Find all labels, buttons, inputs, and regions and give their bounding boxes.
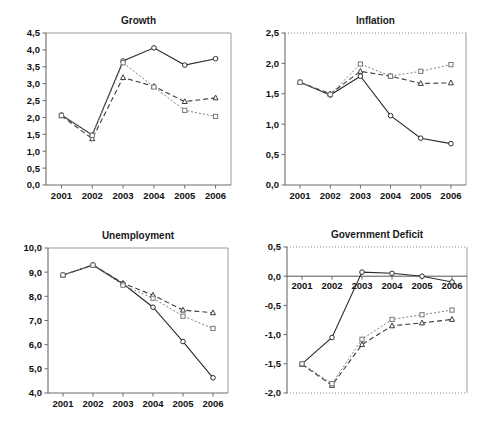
y-tick-label: 1,0 (266, 119, 279, 130)
data-point-marker-circle (152, 46, 157, 51)
unemployment-chart-svg: Unemployment4,05,06,07,08,09,010,0200120… (0, 214, 239, 428)
data-point-marker-square (59, 113, 63, 117)
x-tick-label: 2001 (52, 398, 74, 409)
y-tick-label: 0,0 (27, 179, 40, 190)
y-tick-label: 7,0 (29, 315, 42, 326)
y-tick-label: 2,5 (266, 27, 280, 38)
x-tick-label: 2002 (82, 190, 103, 201)
x-tick-label: 2003 (112, 398, 133, 409)
data-point-marker-triangle (182, 99, 187, 104)
y-tick-label: 10,0 (24, 242, 43, 253)
data-point-marker-triangle (121, 75, 126, 80)
data-point-marker-circle (330, 335, 335, 340)
government-deficit-chart-svg: Government Deficit-2,0-1,5-1,0-0,50,00,5… (239, 214, 478, 428)
data-point-marker-circle (388, 113, 393, 118)
x-tick-label: 2004 (380, 190, 402, 201)
series-line-dashed-triangle (302, 319, 452, 385)
series-line-dashed-triangle (63, 265, 213, 313)
data-point-marker-circle (213, 56, 218, 61)
y-tick-label: 4,0 (29, 387, 42, 398)
series-line-solid-circle (300, 76, 451, 143)
data-point-marker-triangle (418, 81, 423, 86)
y-tick-label: 3,5 (27, 61, 41, 72)
series-line-dashed-triangle (300, 71, 451, 94)
data-point-marker-triangle (358, 69, 363, 74)
data-point-marker-square (300, 362, 304, 366)
y-tick-label: 4,5 (27, 27, 41, 38)
x-tick-label: 2001 (291, 280, 313, 291)
chart-title: Unemployment (102, 230, 175, 241)
y-tick-label: 9,0 (29, 267, 42, 278)
chart-title: Growth (121, 15, 156, 26)
x-tick-label: 2005 (174, 190, 196, 201)
y-tick-label: 2,0 (27, 112, 40, 123)
data-point-marker-square (181, 314, 185, 318)
data-point-marker-square (360, 337, 364, 341)
data-point-marker-circle (360, 270, 365, 275)
x-tick-label: 2005 (410, 190, 432, 201)
y-tick-label: -0,5 (265, 300, 282, 311)
data-point-marker-square (358, 62, 362, 66)
data-point-marker-circle (420, 274, 425, 279)
y-tick-label: 0,5 (266, 149, 280, 160)
y-tick-label: 2,5 (27, 95, 41, 106)
y-tick-label: 6,0 (29, 339, 42, 350)
series-line-solid-circle (63, 265, 213, 378)
data-point-marker-square (61, 273, 65, 277)
x-tick-label: 2004 (143, 190, 165, 201)
data-point-marker-square (388, 74, 392, 78)
data-point-marker-square (420, 313, 424, 317)
y-tick-label: -1,5 (265, 358, 282, 369)
data-point-marker-square (90, 133, 94, 137)
data-point-marker-circle (211, 375, 216, 380)
data-point-marker-square (298, 80, 302, 84)
data-point-marker-square (213, 114, 217, 118)
inflation-chart-svg: Inflation0,00,51,01,52,02,52001200220032… (239, 0, 478, 214)
data-point-marker-square (328, 92, 332, 96)
data-point-marker-square (91, 263, 95, 267)
y-tick-label: 1,5 (266, 88, 280, 99)
y-tick-label: 0,0 (266, 179, 279, 190)
data-point-marker-triangle (419, 320, 424, 325)
growth-chart-svg: Growth0,00,51,01,52,02,53,03,54,04,52001… (0, 0, 239, 214)
y-tick-label: -1,0 (265, 329, 281, 340)
data-point-marker-square (121, 283, 125, 287)
y-tick-label: 0,5 (27, 163, 41, 174)
multi-panel-chart-figure: Growth0,00,51,01,52,02,53,03,54,04,52001… (0, 0, 478, 428)
data-point-marker-square (450, 308, 454, 312)
x-tick-label: 2001 (51, 190, 73, 201)
chart-panel-growth: Growth0,00,51,01,52,02,53,03,54,04,52001… (0, 0, 239, 214)
x-tick-label: 2002 (321, 280, 342, 291)
data-point-marker-square (183, 108, 187, 112)
y-tick-label: 3,0 (27, 78, 40, 89)
y-tick-label: 5,0 (29, 363, 42, 374)
chart-panel-government-deficit: Government Deficit-2,0-1,5-1,0-0,50,00,5… (239, 214, 478, 428)
data-point-marker-circle (390, 271, 395, 276)
x-tick-label: 2005 (172, 398, 194, 409)
y-tick-label: 1,5 (27, 129, 41, 140)
y-tick-label: 1,0 (27, 146, 40, 157)
x-tick-label: 2004 (142, 398, 164, 409)
x-tick-label: 2004 (381, 280, 403, 291)
y-tick-label: 0,0 (268, 271, 281, 282)
series-line-dotted-square (302, 310, 452, 384)
x-tick-label: 2006 (440, 190, 461, 201)
x-tick-label: 2002 (82, 398, 103, 409)
data-point-marker-square (211, 326, 215, 330)
x-tick-label: 2006 (205, 190, 226, 201)
data-point-marker-triangle (449, 317, 454, 322)
data-point-marker-circle (358, 74, 363, 79)
series-line-dotted-square (61, 63, 215, 136)
x-tick-label: 2003 (113, 190, 134, 201)
data-point-marker-triangle (180, 307, 185, 312)
data-point-marker-square (419, 69, 423, 73)
data-point-marker-circle (450, 280, 455, 285)
chart-title: Inflation (356, 15, 395, 26)
data-point-marker-triangle (210, 310, 215, 315)
data-point-marker-triangle (213, 95, 218, 100)
data-point-marker-circle (418, 136, 423, 141)
data-point-marker-triangle (448, 80, 453, 85)
data-point-marker-square (121, 61, 125, 65)
series-line-dotted-square (63, 265, 213, 328)
x-tick-label: 2001 (290, 190, 312, 201)
